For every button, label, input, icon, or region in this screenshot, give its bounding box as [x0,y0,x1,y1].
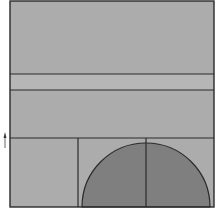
middle-band [10,74,214,90]
diagram-canvas [0,0,218,217]
arrow-marker-icon [4,132,7,148]
